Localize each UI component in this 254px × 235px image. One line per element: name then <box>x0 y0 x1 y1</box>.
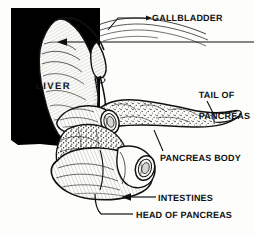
label-tail-line-1: TAIL OF <box>199 90 235 100</box>
label-liver: LIVER <box>36 82 71 92</box>
anatomy-figure: GALLBLADDER LIVER TAIL OF PANCREAS PANCR… <box>0 0 254 235</box>
label-tail-line-2: PANCREAS <box>199 111 250 121</box>
label-head-of-pancreas: HEAD OF PANCREAS <box>136 210 232 220</box>
label-pancreas-body: PANCREAS BODY <box>160 153 241 163</box>
label-tail-of-pancreas: TAIL OF PANCREAS <box>188 79 250 132</box>
label-gallbladder: GALLBLADDER <box>152 13 223 23</box>
label-intestines: INTESTINES <box>158 193 213 203</box>
